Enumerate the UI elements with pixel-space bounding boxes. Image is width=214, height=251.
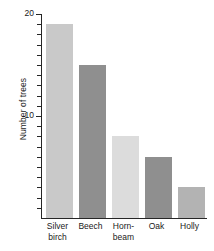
y-axis-minor-tick bbox=[37, 198, 41, 199]
y-axis-tick-label: 10 bbox=[25, 110, 34, 121]
y-axis-minor-tick bbox=[37, 126, 41, 127]
bar bbox=[145, 157, 172, 218]
bar bbox=[178, 187, 205, 218]
x-axis-category-label: Holly bbox=[170, 221, 209, 232]
x-axis-line bbox=[41, 218, 207, 219]
y-axis-minor-tick bbox=[37, 24, 41, 25]
y-axis-minor-tick bbox=[37, 96, 41, 97]
bar-chart: Number of trees 1020 Silver birchBeechHo… bbox=[0, 0, 214, 251]
bar bbox=[46, 24, 73, 218]
y-axis-minor-tick bbox=[37, 208, 41, 209]
y-axis-major-tick: 10 bbox=[36, 116, 41, 117]
y-axis-minor-tick bbox=[37, 106, 41, 107]
y-axis-minor-tick bbox=[37, 136, 41, 137]
bar-series bbox=[42, 10, 207, 218]
y-axis-minor-tick bbox=[37, 45, 41, 46]
y-axis-minor-tick bbox=[37, 167, 41, 168]
y-axis-minor-tick bbox=[37, 177, 41, 178]
y-axis-minor-tick bbox=[37, 55, 41, 56]
bar bbox=[112, 136, 139, 218]
bar bbox=[79, 65, 106, 218]
y-axis-minor-tick bbox=[37, 147, 41, 148]
y-axis-minor-tick bbox=[37, 75, 41, 76]
y-axis-minor-tick bbox=[37, 187, 41, 188]
y-axis-minor-tick bbox=[37, 65, 41, 66]
y-axis-minor-tick bbox=[37, 157, 41, 158]
y-axis-title: Number of trees bbox=[18, 39, 28, 179]
y-axis-major-tick: 20 bbox=[36, 14, 41, 15]
y-axis-tick-label: 20 bbox=[25, 8, 34, 19]
y-axis-minor-tick bbox=[37, 85, 41, 86]
y-axis-minor-tick bbox=[37, 34, 41, 35]
plot-area: 1020 bbox=[41, 10, 207, 218]
x-axis-category-labels: Silver birchBeechHorn- beamOakHolly bbox=[41, 221, 213, 251]
